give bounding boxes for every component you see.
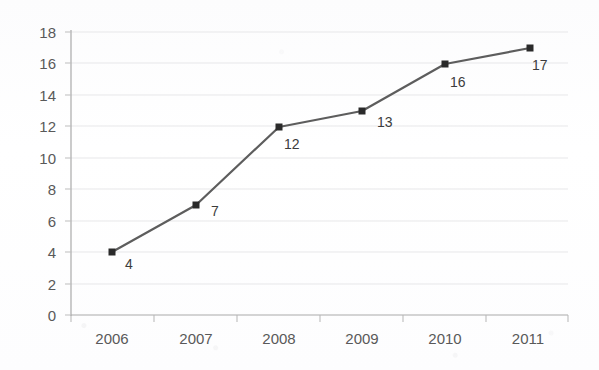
x-tick-label-2008: 2008 [244,331,314,346]
data-point-marker [442,61,449,68]
data-label-2011: 17 [532,58,548,72]
x-tick-label-2009: 2009 [327,331,397,346]
x-tick-label-2007: 2007 [161,331,231,346]
x-tick-label-2006: 2006 [77,331,147,346]
y-tick-label-4: 4 [30,245,56,260]
y-tick-label-10: 10 [30,151,56,166]
data-point-marker [359,108,366,115]
data-label-2010: 16 [450,75,466,89]
data-point-marker [193,202,200,209]
data-point-marker [527,45,534,52]
chart-plot-area [0,0,599,370]
line-chart: 18 16 14 12 10 8 6 4 2 0 2006 2007 2008 … [0,0,599,370]
y-tick-label-16: 16 [30,56,56,71]
gridlines-horizontal [71,32,568,284]
data-label-2009: 13 [377,115,393,129]
y-axis-line [65,30,71,316]
series-markers [109,45,534,256]
data-point-marker [109,249,116,256]
x-axis-line [71,315,568,322]
y-tick-label-14: 14 [30,88,56,103]
x-tick-label-2011: 2011 [493,331,563,346]
x-tick-label-2010: 2010 [410,331,480,346]
data-point-marker [276,124,283,131]
y-tick-label-12: 12 [30,119,56,134]
data-label-2006: 4 [125,257,133,271]
y-tick-label-6: 6 [30,214,56,229]
data-label-2007: 7 [211,204,219,218]
y-tick-label-2: 2 [30,277,56,292]
y-tick-label-0: 0 [30,308,56,323]
data-label-2008: 12 [284,137,300,151]
y-tick-label-18: 18 [30,25,56,40]
y-tick-label-8: 8 [30,182,56,197]
